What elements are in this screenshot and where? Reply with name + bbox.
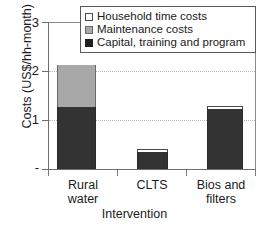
y-tick-label-2: 2 [0, 64, 39, 77]
x-axis-label-line: filters [181, 192, 261, 206]
x-tick-mark-left [48, 170, 49, 176]
legend-item-label: Maintenance costs [97, 24, 193, 36]
x-tick-mark-right [255, 170, 256, 176]
x-axis-label-bios-and-filters: Bios and filters [181, 178, 261, 206]
legend-item-label: Household time costs [97, 11, 207, 23]
y-tick-label-1: 1 [0, 113, 39, 126]
legend-item-capital-training-and-program[interactable]: Capital, training and program [85, 36, 251, 49]
white-swatch-icon [85, 13, 93, 21]
x-axis-label-line: Rural [43, 178, 123, 192]
black-swatch-icon [85, 39, 93, 47]
legend-item-maintenance-costs[interactable]: Maintenance costs [85, 23, 251, 36]
bar-segment-capital [207, 109, 243, 169]
x-tick-mark-2 [186, 170, 187, 176]
x-tick-mark-1 [117, 170, 118, 176]
x-axis-title: Intervention [0, 207, 269, 221]
bar-clts[interactable] [137, 149, 168, 169]
y-tick-label-3: 3 [0, 16, 39, 29]
bar-segment-capital [57, 107, 96, 169]
chart-figure: Costs (US$/hh-month) 3 2 1 - Rura [0, 0, 269, 233]
legend-item-label: Capital, training and program [97, 37, 245, 49]
x-axis-label-line: water [43, 192, 123, 206]
bar-segment-maintenance [57, 65, 96, 107]
legend-item-household-time-costs[interactable]: Household time costs [85, 10, 251, 23]
chart-legend: Household time costs Maintenance costs C… [80, 6, 256, 53]
y-tick-label-0: - [0, 161, 39, 174]
bar-bios-and-filters[interactable] [207, 106, 243, 169]
x-axis-label-line: Bios and [181, 178, 261, 192]
bar-rural-water[interactable] [57, 65, 96, 169]
gray-swatch-icon [85, 26, 93, 34]
bar-segment-capital [137, 152, 168, 169]
x-axis-label-line: CLTS [112, 178, 192, 192]
x-axis-label-rural-water: Rural water [43, 178, 123, 206]
x-axis-label-clts: CLTS [112, 178, 192, 192]
